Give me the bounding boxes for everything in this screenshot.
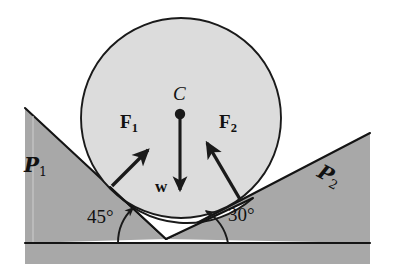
- force1-symbol: F: [120, 111, 132, 132]
- physics-diagram-figure: P1 P2 F1 F2 w C 45° 30°: [0, 0, 394, 274]
- plane1-subscript: 1: [39, 164, 47, 179]
- angle1-label: 45°: [87, 207, 114, 226]
- force2-symbol: F: [219, 111, 231, 132]
- angle2-label: 30°: [228, 205, 255, 224]
- center-label: C: [173, 84, 186, 103]
- force2-subscript: 2: [231, 121, 237, 135]
- diagram-canvas: [0, 0, 394, 274]
- force1-label: F1: [120, 112, 138, 134]
- plane1-symbol: P: [24, 153, 39, 177]
- ground-slab: [25, 243, 370, 264]
- force1-subscript: 1: [132, 121, 138, 135]
- force2-label: F2: [219, 112, 237, 134]
- plane1-label: P1: [24, 155, 47, 178]
- weight-label: w: [155, 178, 167, 195]
